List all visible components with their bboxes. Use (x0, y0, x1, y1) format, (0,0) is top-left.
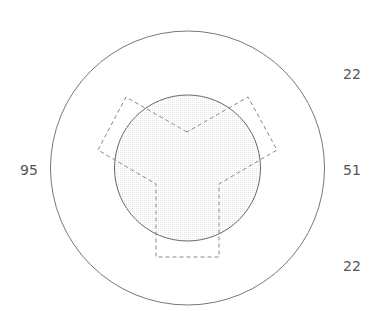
diagram-canvas (0, 0, 381, 311)
value-label-bottom-right: 22 (343, 258, 361, 274)
value-label-left: 95 (20, 162, 38, 178)
value-label-top-right: 22 (343, 66, 361, 82)
inner-circle (115, 95, 261, 241)
value-label-middle-right: 51 (343, 162, 361, 178)
